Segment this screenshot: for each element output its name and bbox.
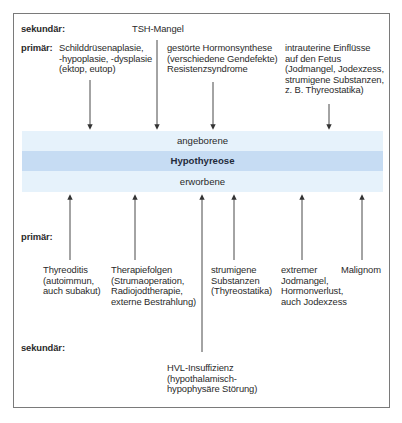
- cause-malignom: Malignom: [341, 265, 381, 276]
- cause-intrauterine-einfluesse: intrauterine Einflüsse auf den Fetus (Jo…: [285, 43, 384, 96]
- acquired-primary-heading: primär:: [21, 232, 53, 243]
- cause-therapiefolgen: Therapiefolgen (Strumaoperation, Radiojo…: [111, 265, 196, 307]
- band-angeborene: angeborene: [22, 131, 383, 151]
- cause-gestoerte-hormonsynthese: gestörte Hormonsynthese (verschiedene Ge…: [167, 43, 278, 75]
- cause-hvl-insuffizienz: HVL-Insuffizienz (hypothalamisch- hypoph…: [167, 363, 257, 395]
- cause-strumigene-substanzen: strumigene Substanzen (Thyreostatika): [211, 265, 272, 297]
- band-erworbene: erworbene: [22, 171, 383, 192]
- band-hypothyreose: Hypothyreose: [22, 151, 383, 171]
- cause-thyreoditis: Thyreoditis (autoimmun, auch subakut): [43, 265, 101, 297]
- congenital-secondary-heading: sekundär:: [21, 24, 65, 35]
- congenital-primary-heading: primär:: [21, 43, 53, 54]
- acquired-secondary-heading: sekundär:: [21, 343, 65, 354]
- cause-extremer-jodmangel: extremer Jodmangel, Hormonverlust, auch …: [281, 265, 347, 307]
- cause-schilddruesenaplasie: Schilddrüsenaplasie, -hypoplasie, -dyspl…: [59, 43, 152, 75]
- cause-tsh-mangel: TSH-Mangel: [132, 24, 184, 35]
